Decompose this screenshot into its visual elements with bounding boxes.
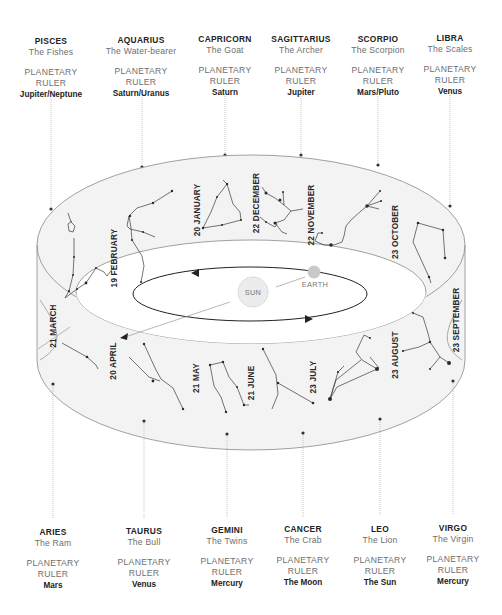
date-23-july: 23 JULY bbox=[309, 360, 318, 393]
sign-symbol: The Scales bbox=[395, 44, 502, 55]
date-20-april: 20 APRIL bbox=[109, 342, 118, 379]
sign-libra: LIBRA The Scales PLANETARY RULER Venus bbox=[395, 33, 502, 97]
sign-name: LIBRA bbox=[395, 33, 502, 44]
ruler-label: PLANETARY bbox=[395, 63, 502, 75]
ruler-label: PLANETARY bbox=[398, 553, 502, 565]
date-22-december: 22 DECEMBER bbox=[252, 173, 261, 233]
earth-label: EARTH bbox=[302, 280, 328, 289]
date-21-may: 21 MAY bbox=[192, 363, 201, 393]
date-21-june: 21 JUNE bbox=[247, 365, 256, 400]
ruler-label: RULER bbox=[395, 75, 502, 86]
ruler-value: Mercury bbox=[398, 576, 502, 587]
date-23-august: 23 AUGUST bbox=[391, 331, 400, 378]
sign-name: VIRGO bbox=[398, 523, 502, 534]
ruler-value: Venus bbox=[395, 86, 502, 97]
sign-virgo: VIRGO The Virgin PLANETARY RULER Mercury bbox=[398, 523, 502, 587]
ruler-label: RULER bbox=[398, 565, 502, 576]
date-19-february: 19 FEBRUARY bbox=[110, 228, 119, 287]
date-22-november: 22 NOVEMBER bbox=[307, 185, 316, 246]
date-23-september: 23 SEPTEMBER bbox=[452, 288, 461, 353]
date-23-october: 23 OCTOBER bbox=[391, 205, 400, 259]
date-20-january: 20 JANUARY bbox=[193, 183, 202, 236]
sign-symbol: The Virgin bbox=[398, 534, 502, 545]
sun-label: SUN bbox=[245, 288, 262, 297]
date-21-march: 21 MARCH bbox=[49, 304, 58, 347]
